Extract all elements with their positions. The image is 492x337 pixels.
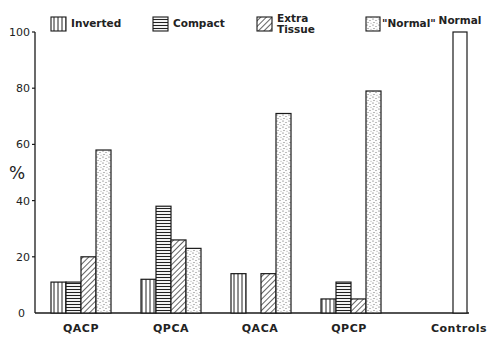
y-tick-label: 40 bbox=[16, 195, 30, 208]
bar-qaca-normal bbox=[276, 113, 291, 313]
legend-item: Compact bbox=[153, 17, 225, 31]
x-tick-label: Controls bbox=[431, 322, 487, 335]
category-labels: QACPQPCAQACAQPCPControls bbox=[63, 322, 487, 335]
bar-qaca-extra-tissue bbox=[261, 274, 276, 313]
legend-label: "Normal" bbox=[382, 17, 436, 29]
chart-legend: InvertedCompactExtraTissue"Normal" bbox=[51, 12, 436, 35]
y-axis-label: % bbox=[9, 163, 25, 183]
legend-label: Tissue bbox=[277, 23, 315, 35]
bar-qpcp-inverted bbox=[321, 299, 336, 313]
legend-swatch bbox=[257, 17, 272, 31]
x-tick-label: QPCP bbox=[331, 322, 367, 335]
y-tick-label: 0 bbox=[18, 307, 25, 320]
y-tick-label: 60 bbox=[16, 138, 30, 151]
bar-qpcp-normal bbox=[366, 91, 381, 313]
bar-qacp-compact bbox=[66, 282, 81, 313]
bars: Normal bbox=[51, 14, 481, 313]
bar-qacp-extra-tissue bbox=[81, 257, 96, 313]
bar-qacp-normal bbox=[96, 150, 111, 313]
bar-qacp-inverted bbox=[51, 282, 66, 313]
bar-controls-normal bbox=[453, 32, 467, 313]
legend-label: Compact bbox=[173, 17, 225, 29]
bar-qaca-inverted bbox=[231, 274, 246, 313]
bar-qpcp-compact bbox=[336, 282, 351, 313]
legend-swatch bbox=[51, 17, 66, 31]
x-tick-label: QPCA bbox=[153, 322, 189, 335]
x-tick-label: QACA bbox=[242, 322, 278, 335]
legend-swatch bbox=[153, 17, 168, 31]
legend-label: Inverted bbox=[71, 17, 121, 29]
legend-swatch bbox=[366, 17, 380, 31]
legend-item: ExtraTissue bbox=[257, 12, 315, 35]
controls-bar-label: Normal bbox=[439, 14, 482, 26]
bar-qpca-inverted bbox=[141, 279, 156, 313]
y-tick-label: 100 bbox=[9, 26, 30, 39]
legend-item: Inverted bbox=[51, 17, 121, 31]
bar-chart: InvertedCompactExtraTissue"Normal" 02040… bbox=[0, 0, 492, 337]
y-tick-label: 80 bbox=[16, 82, 30, 95]
bar-qpcp-extra-tissue bbox=[351, 299, 366, 313]
bar-qpca-compact bbox=[156, 206, 171, 313]
x-tick-label: QACP bbox=[63, 322, 99, 335]
bar-qpca-extra-tissue bbox=[171, 240, 186, 313]
bar-qpca-normal bbox=[186, 248, 201, 313]
legend-item: "Normal" bbox=[366, 17, 436, 31]
y-tick-label: 20 bbox=[16, 251, 30, 264]
